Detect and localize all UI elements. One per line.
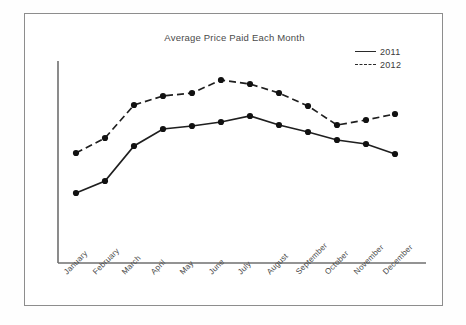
data-point-marker[interactable]	[218, 119, 224, 125]
chart-frame: Average Price Paid Each Month 2011 2012 …	[24, 13, 443, 306]
data-point-marker[interactable]	[160, 93, 166, 99]
data-series-group	[73, 77, 398, 196]
data-point-marker[interactable]	[247, 81, 253, 87]
data-point-marker[interactable]	[73, 150, 79, 156]
data-point-marker[interactable]	[392, 111, 398, 117]
legend-label-2011: 2011	[380, 47, 401, 57]
data-point-marker[interactable]	[334, 137, 340, 143]
data-point-marker[interactable]	[276, 122, 282, 128]
axis-lines	[58, 61, 426, 263]
data-point-marker[interactable]	[247, 113, 253, 119]
data-point-marker[interactable]	[363, 141, 369, 147]
data-point-marker[interactable]	[189, 123, 195, 129]
data-point-marker[interactable]	[189, 90, 195, 96]
chart-screenshot: Average Price Paid Each Month 2011 2012 …	[0, 0, 466, 325]
data-point-marker[interactable]	[131, 102, 137, 108]
data-point-marker[interactable]	[131, 143, 137, 149]
data-point-marker[interactable]	[305, 103, 311, 109]
data-point-marker[interactable]	[160, 126, 166, 132]
data-point-marker[interactable]	[334, 122, 340, 128]
legend-line-dashed-icon	[355, 64, 376, 65]
data-point-marker[interactable]	[102, 135, 108, 141]
legend-item-2011[interactable]: 2011	[355, 45, 435, 58]
data-point-marker[interactable]	[218, 77, 224, 83]
data-point-marker[interactable]	[392, 151, 398, 157]
legend-item-2012[interactable]: 2012	[355, 58, 435, 71]
data-point-marker[interactable]	[73, 190, 79, 196]
data-point-marker[interactable]	[305, 129, 311, 135]
data-point-marker[interactable]	[363, 117, 369, 123]
legend-line-solid-icon	[355, 51, 376, 52]
data-point-marker[interactable]	[102, 178, 108, 184]
series-line-2011	[76, 116, 395, 193]
legend-label-2012: 2012	[380, 60, 401, 70]
chart-legend: 2011 2012	[355, 45, 435, 71]
data-point-marker[interactable]	[276, 90, 282, 96]
